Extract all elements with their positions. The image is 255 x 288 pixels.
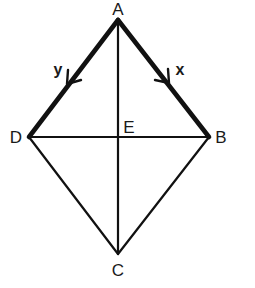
label-d: D	[10, 128, 22, 147]
rhombus-diagram: A D B C E y x	[0, 0, 255, 288]
label-b: B	[215, 128, 226, 147]
edge-dc	[29, 137, 118, 254]
edge-bc	[118, 137, 209, 254]
vector-edge-ad	[29, 20, 118, 137]
label-e: E	[123, 118, 134, 137]
label-c: C	[112, 261, 124, 280]
label-vector-y: y	[54, 61, 63, 78]
label-vector-x: x	[176, 61, 185, 78]
label-a: A	[112, 0, 124, 19]
